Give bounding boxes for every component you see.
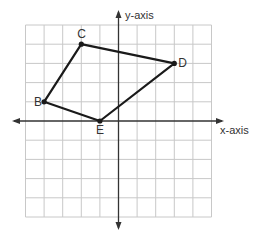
axes: x-axis y-axis (12, 9, 249, 230)
x-axis-label: x-axis (220, 124, 249, 136)
point-b-marker (42, 99, 47, 104)
point-e-label: E (96, 123, 104, 137)
point-d-label: D (178, 56, 187, 70)
y-axis-arrow-down-icon (116, 222, 122, 230)
y-axis-label: y-axis (125, 9, 154, 21)
point-d-marker (172, 61, 177, 66)
point-b-label: B (34, 95, 42, 109)
point-c-label: C (77, 27, 86, 41)
x-axis-arrow-left-icon (12, 118, 20, 124)
y-axis-arrow-up-icon (116, 10, 122, 18)
point-c-marker (79, 42, 84, 47)
coordinate-plane: x-axis y-axis CDEB (0, 0, 263, 236)
